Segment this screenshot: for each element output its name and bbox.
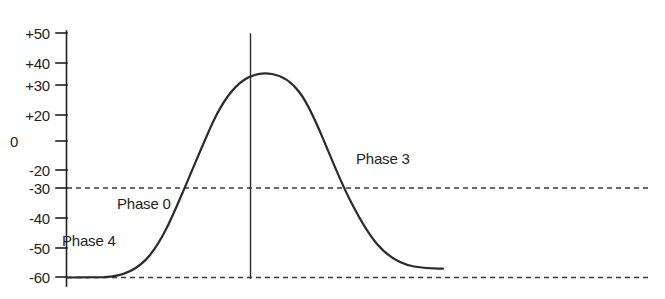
y-tick-label-minus50: -50 [10,241,50,256]
action-potential-curve [67,74,443,278]
y-tick-label-plus20: +20 [10,108,50,123]
phase-3-label: Phase 3 [356,151,410,166]
y-tick-label-plus50: +50 [10,26,50,41]
phase-0-label: Phase 0 [117,196,171,211]
chart-canvas [0,0,665,299]
phase-4-label: Phase 4 [62,233,116,248]
y-tick-label-plus30: +30 [10,78,50,93]
y-tick-label-plus40: +40 [10,56,50,71]
y-tick-label-minus60: -60 [10,270,50,285]
action-potential-chart: +50 +40 +30 +20 0 -20 -30 -40 -50 -60 Ph… [0,0,665,299]
y-tick-label-minus20: -20 [10,163,50,178]
y-tick-label-zero: 0 [10,134,50,149]
y-tick-label-minus30: -30 [10,181,50,196]
y-tick-label-minus40: -40 [10,211,50,226]
